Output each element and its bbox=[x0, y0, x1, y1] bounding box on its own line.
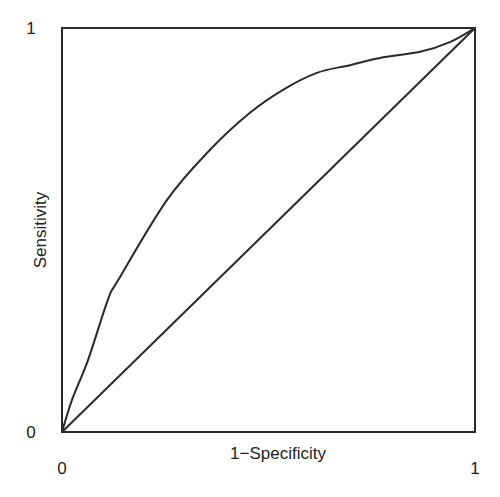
tick-labels: 0101 bbox=[26, 19, 479, 478]
chance-diagonal-line bbox=[62, 28, 475, 432]
series-layer bbox=[62, 28, 475, 432]
x-tick-label: 0 bbox=[57, 459, 66, 478]
x-axis-label: 1−Specificity bbox=[230, 444, 326, 463]
x-tick-label: 1 bbox=[470, 459, 479, 478]
y-axis-label: Sensitivity bbox=[31, 191, 50, 268]
roc-chart: 0101 1−Specificity Sensitivity bbox=[0, 0, 500, 497]
y-tick-label: 0 bbox=[26, 423, 35, 442]
y-tick-label: 1 bbox=[26, 19, 35, 38]
